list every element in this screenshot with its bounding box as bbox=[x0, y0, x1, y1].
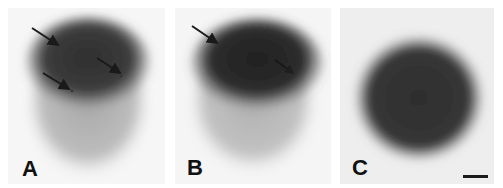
panel-label-a: A bbox=[22, 158, 38, 180]
nucleus-dot bbox=[120, 75, 123, 78]
panel-label-b: B bbox=[187, 157, 203, 179]
scale-bar bbox=[463, 175, 488, 178]
animal-cap-dark-region bbox=[191, 18, 323, 110]
figure-panel-b: B bbox=[175, 8, 331, 184]
figure-panel-c: C bbox=[340, 8, 494, 184]
animal-cap-dark-region bbox=[26, 17, 150, 109]
figure-panel-a: A bbox=[8, 8, 165, 184]
nucleus-dot bbox=[71, 90, 74, 93]
embryo-sphere bbox=[353, 34, 485, 162]
panel-label-c: C bbox=[352, 157, 368, 179]
